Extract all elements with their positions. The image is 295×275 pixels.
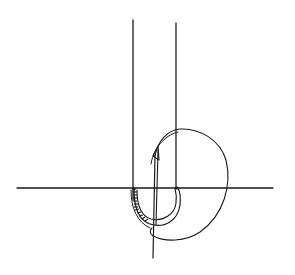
diagram-canvas bbox=[0, 0, 295, 275]
suture-loop bbox=[150, 129, 228, 240]
left-junction-dot bbox=[132, 187, 135, 190]
right-junction-dot bbox=[175, 186, 178, 189]
needle-holder-shaft bbox=[153, 155, 155, 258]
